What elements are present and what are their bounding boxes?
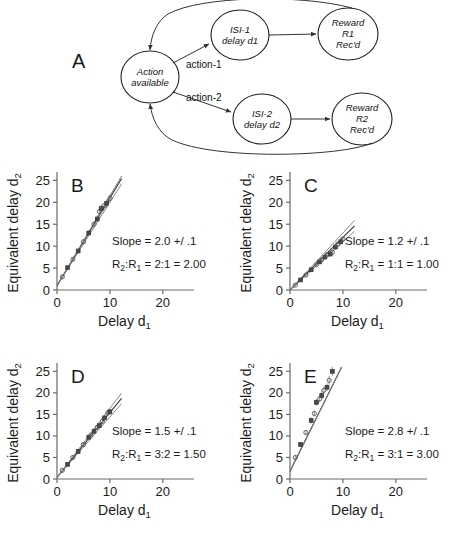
panel-c: 051015202501020CSlope = 1.2 +/ .1R2:R1 =…: [233, 160, 467, 355]
y-axis-ticks: 0510152025: [269, 173, 290, 298]
x-axis-ticks: 01020: [286, 479, 403, 499]
slope-annotation: Slope = 1.5 +/ .1: [112, 425, 196, 437]
node-action: Action available: [121, 51, 179, 103]
y-axis-ticks: 0510152025: [36, 173, 57, 298]
y-tick-label: 15: [269, 217, 283, 232]
panel-b: 051015202501020BSlope = 2.0 +/ .1R2:R1 =…: [0, 160, 234, 355]
x-axis-ticks: 01020: [286, 290, 403, 310]
data-point: [325, 385, 329, 389]
x-tick-label: 10: [103, 295, 117, 310]
x-tick-label: 0: [53, 295, 60, 310]
panel-d: 051015202501020DSlope = 1.5 +/ .1R2:R1 =…: [0, 353, 234, 543]
y-tick-label: 5: [276, 261, 283, 276]
y-tick-label: 0: [276, 472, 283, 487]
data-points: [293, 236, 345, 287]
data-point: [103, 416, 107, 420]
ratio-annotation: R2:R1 = 2:1 = 2.00: [112, 258, 206, 273]
node-isi2-line-2: delay d2: [244, 119, 281, 130]
node-reward1-line-3: Rec'd: [336, 39, 361, 50]
y-tick-label: 25: [269, 173, 283, 188]
slope-annotation: Slope = 2.8 +/ .1: [345, 425, 429, 437]
x-axis-ticks: 01020: [53, 479, 170, 499]
node-isi1: ISI-1 delay d1: [211, 10, 269, 60]
y-tick-label: 10: [36, 428, 50, 443]
ratio-annotation: R2:R1 = 3:1 = 3.00: [345, 448, 439, 463]
slope-annotation: Slope = 1.2 +/ .1: [345, 235, 429, 247]
y-tick-label: 25: [269, 364, 283, 379]
x-tick-label: 20: [156, 484, 170, 499]
y-tick-label: 15: [36, 217, 50, 232]
x-axis-ticks: 01020: [53, 290, 170, 310]
x-tick-label: 20: [156, 295, 170, 310]
y-tick-label: 15: [269, 407, 283, 422]
y-tick-label: 5: [43, 261, 50, 276]
x-tick-label: 0: [286, 484, 293, 499]
y-tick-label: 0: [43, 472, 50, 487]
node-reward1: Reward R1 Rec'd: [318, 8, 378, 60]
node-reward2: Reward R2 Rec'd: [332, 93, 392, 145]
x-tick-label: 10: [336, 295, 350, 310]
data-point: [299, 443, 303, 447]
data-point: [299, 278, 303, 282]
edge-isi1-to-reward1: [269, 34, 316, 35]
y-axis-title: Equivalent delay d2: [5, 173, 23, 293]
y-tick-label: 20: [269, 195, 283, 210]
y-tick-label: 25: [36, 364, 50, 379]
y-tick-label: 5: [43, 450, 50, 465]
y-tick-label: 0: [43, 283, 50, 298]
y-axis-title: Equivalent delay d2: [238, 363, 256, 483]
y-tick-label: 25: [36, 173, 50, 188]
panel-e: 051015202501020ESlope = 2.8 +/ .1R2:R1 =…: [233, 353, 467, 543]
edge-label-action-1: action-1: [186, 59, 222, 70]
data-point: [320, 394, 324, 398]
y-tick-label: 15: [36, 407, 50, 422]
y-tick-label: 0: [276, 283, 283, 298]
node-isi2-line-1: ISI-2: [252, 108, 273, 119]
panel-letter: E: [304, 366, 317, 387]
node-isi1-line-2: delay d1: [222, 35, 258, 46]
data-point: [309, 419, 313, 423]
data-point: [315, 400, 319, 404]
y-axis-title: Equivalent delay d2: [5, 363, 23, 483]
panel-a-letter: A: [72, 50, 86, 72]
y-axis-title: Equivalent delay d2: [238, 173, 256, 293]
y-tick-label: 20: [36, 195, 50, 210]
data-point: [95, 217, 99, 221]
y-tick-label: 10: [269, 428, 283, 443]
slope-annotation: Slope = 2.0 +/ .1: [112, 235, 196, 247]
node-action-line-2: available: [131, 77, 169, 88]
data-point: [97, 424, 101, 428]
ratio-annotation: R2:R1 = 1:1 = 1.00: [345, 258, 439, 273]
data-point: [309, 268, 313, 272]
node-reward2-line-2: R2: [356, 113, 369, 124]
data-point: [105, 201, 109, 205]
node-reward2-line-3: Rec'd: [350, 124, 375, 135]
data-point: [76, 249, 80, 253]
data-point: [76, 450, 80, 454]
node-isi1-line-1: ISI-1: [230, 24, 250, 35]
ratio-annotation: R2:R1 = 3:2 = 1.50: [112, 448, 206, 463]
panel-letter: B: [71, 175, 84, 196]
data-point: [87, 231, 91, 235]
x-tick-label: 10: [336, 484, 350, 499]
y-axis-ticks: 0510152025: [269, 364, 290, 487]
node-reward2-line-1: Reward: [346, 102, 379, 113]
node-action-line-1: Action: [136, 66, 163, 77]
y-tick-label: 20: [269, 385, 283, 400]
x-tick-label: 10: [103, 484, 117, 499]
y-axis-ticks: 0510152025: [36, 364, 57, 487]
data-point: [330, 369, 334, 373]
node-isi2: ISI-2 delay d2: [233, 94, 291, 144]
x-tick-label: 20: [389, 295, 403, 310]
panel-a-diagram: A Action available ISI-1 delay d1 Reward…: [0, 0, 467, 160]
edge-label-action-2: action-2: [186, 92, 222, 103]
x-axis-title: Delay d1: [98, 502, 151, 520]
y-tick-label: 10: [269, 239, 283, 254]
node-reward1-line-2: R1: [342, 28, 354, 39]
y-tick-label: 20: [36, 385, 50, 400]
x-tick-label: 20: [389, 484, 403, 499]
x-axis-title: Delay d1: [98, 313, 151, 331]
data-point: [92, 429, 96, 433]
figure-root: A Action available ISI-1 delay d1 Reward…: [0, 0, 467, 543]
x-axis-title: Delay d1: [331, 502, 384, 520]
